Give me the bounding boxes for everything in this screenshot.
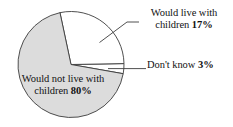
slice-label-line2: children: [155, 19, 192, 30]
slice-label-line1: Would not live with: [22, 73, 105, 84]
slice-value-80: 80%: [71, 85, 92, 96]
pie-chart-figure: Would live with children 17% Don't know …: [0, 0, 233, 127]
slice-value-3: 3%: [198, 59, 214, 70]
slice-label-line1: Would live with: [151, 7, 218, 18]
slice-label-would-live-with-children: Would live with children 17%: [138, 7, 230, 31]
slice-label-would-not-live-with-children: Would not live with children 80%: [10, 73, 116, 97]
slice-value-17: 17%: [192, 19, 213, 30]
slice-label-dont-know: Don't know 3%: [147, 59, 233, 71]
slice-label-text: Don't know: [147, 59, 198, 70]
slice-label-line2: children: [34, 85, 71, 96]
